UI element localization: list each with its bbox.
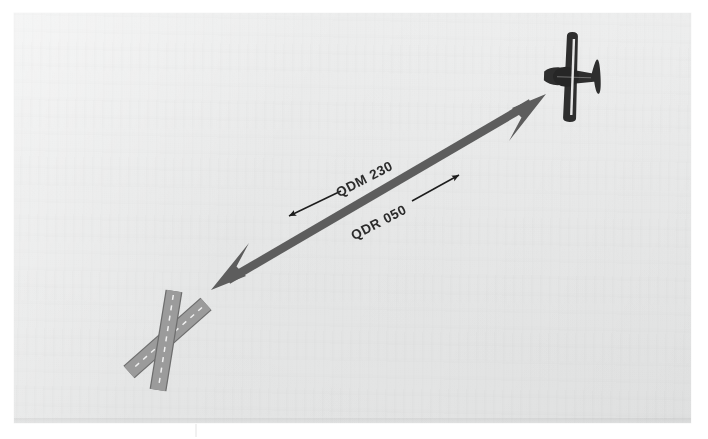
aircraft-symbol bbox=[542, 31, 602, 123]
runway-primary bbox=[158, 291, 174, 390]
aircraft-tailplane bbox=[590, 59, 601, 94]
bearing-double-arrow bbox=[211, 94, 546, 290]
qdm-direction-arrow bbox=[289, 191, 341, 216]
qdr-direction-arrow bbox=[412, 175, 459, 201]
diagram-scene bbox=[0, 0, 708, 439]
figure-canvas: QDM 230 QDR 050 bbox=[0, 0, 708, 439]
airfield-runway-cross bbox=[129, 291, 206, 390]
bearing-arrow-shaft bbox=[228, 103, 531, 280]
